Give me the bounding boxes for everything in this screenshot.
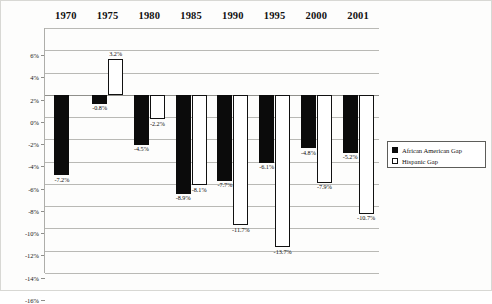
y-axis-tick--2%: -2%	[5, 141, 39, 148]
bar-group-1995: -6.1%-13.7%	[254, 28, 296, 273]
y-axis-tickmark	[41, 300, 45, 301]
y-axis-tick-6%: 6%	[5, 52, 39, 59]
x-axis-label-1990: 1990	[212, 7, 254, 25]
bar-2001-hispanic[interactable]	[359, 95, 374, 214]
bar-group-1970: -7.2%	[45, 28, 87, 273]
bar-2000-hispanic[interactable]	[317, 95, 332, 183]
legend-entry-hispanic-gap[interactable]: Hispanic Gap	[392, 156, 481, 166]
gridline--16%	[45, 273, 379, 274]
y-axis-tickmark	[41, 278, 45, 279]
bar-group-1975: -0.8%3.2%	[87, 28, 129, 273]
x-axis-label-2001: 2001	[337, 7, 379, 25]
legend-entry-african-american-gap[interactable]: African American Gap	[392, 145, 481, 155]
plot-area: -7.2%-0.8%3.2%-4.5%-2.2%-8.9%-8.1%-7.7%-…	[45, 28, 379, 273]
y-axis-tick--14%: -14%	[5, 274, 39, 281]
bar-1975-african-american[interactable]	[92, 95, 107, 104]
legend-label: Hispanic Gap	[402, 158, 438, 165]
bar-value-label-1975-african-american: -0.8%	[83, 104, 117, 111]
y-axis-tick--4%: -4%	[5, 163, 39, 170]
y-axis-tick-2%: 2%	[5, 96, 39, 103]
legend-label: African American Gap	[402, 147, 462, 154]
y-axis-tick--12%: -12%	[5, 252, 39, 259]
bar-1985-african-american[interactable]	[176, 95, 191, 194]
bar-group-1990: -7.7%-11.7%	[212, 28, 254, 273]
y-axis-tick--8%: -8%	[5, 207, 39, 214]
legend-swatch-icon	[392, 158, 398, 164]
x-axis-label-1975: 1975	[87, 7, 129, 25]
legend-swatch-icon	[392, 147, 398, 153]
bar-1995-african-american[interactable]	[259, 95, 274, 163]
bar-1980-hispanic[interactable]	[150, 95, 165, 120]
bar-group-1985: -8.9%-8.1%	[170, 28, 212, 273]
x-axis-label-1995: 1995	[254, 7, 296, 25]
y-axis-tick-4%: 4%	[5, 74, 39, 81]
x-axis-label-1980: 1980	[129, 7, 171, 25]
x-axis-label-2000: 2000	[296, 7, 338, 25]
y-axis-tick--10%: -10%	[5, 230, 39, 237]
bar-1990-hispanic[interactable]	[233, 95, 248, 225]
bar-value-label-2001-hispanic: -10.7%	[349, 214, 383, 221]
y-axis-tick-0%: 0%	[5, 118, 39, 125]
y-axis-tick--6%: -6%	[5, 185, 39, 192]
bar-2001-african-american[interactable]	[343, 95, 358, 153]
bar-value-label-1980-african-american: -4.5%	[124, 145, 158, 152]
bar-1970-african-american[interactable]	[54, 95, 69, 175]
x-axis-label-1985: 1985	[170, 7, 212, 25]
x-axis-label-1970: 1970	[45, 7, 87, 25]
x-axis-year-labels: 19701975198019851990199520002001	[45, 7, 379, 25]
bar-1990-african-american[interactable]	[217, 95, 232, 181]
bar-group-1980: -4.5%-2.2%	[129, 28, 171, 273]
chart-legend: African American GapHispanic Gap	[387, 141, 486, 168]
bar-group-2001: -5.2%-10.7%	[337, 28, 379, 273]
bar-1995-hispanic[interactable]	[275, 95, 290, 248]
bar-value-label-1985-african-american: -8.9%	[166, 194, 200, 201]
bar-group-2000: -4.8%-7.9%	[296, 28, 338, 273]
bar-1975-hispanic[interactable]	[108, 59, 123, 95]
bar-2000-african-american[interactable]	[301, 95, 316, 148]
bar-1985-hispanic[interactable]	[192, 95, 207, 185]
y-axis-tick--16%: -16%	[5, 297, 39, 304]
bar-value-label-1970-african-american: -7.2%	[45, 176, 79, 183]
